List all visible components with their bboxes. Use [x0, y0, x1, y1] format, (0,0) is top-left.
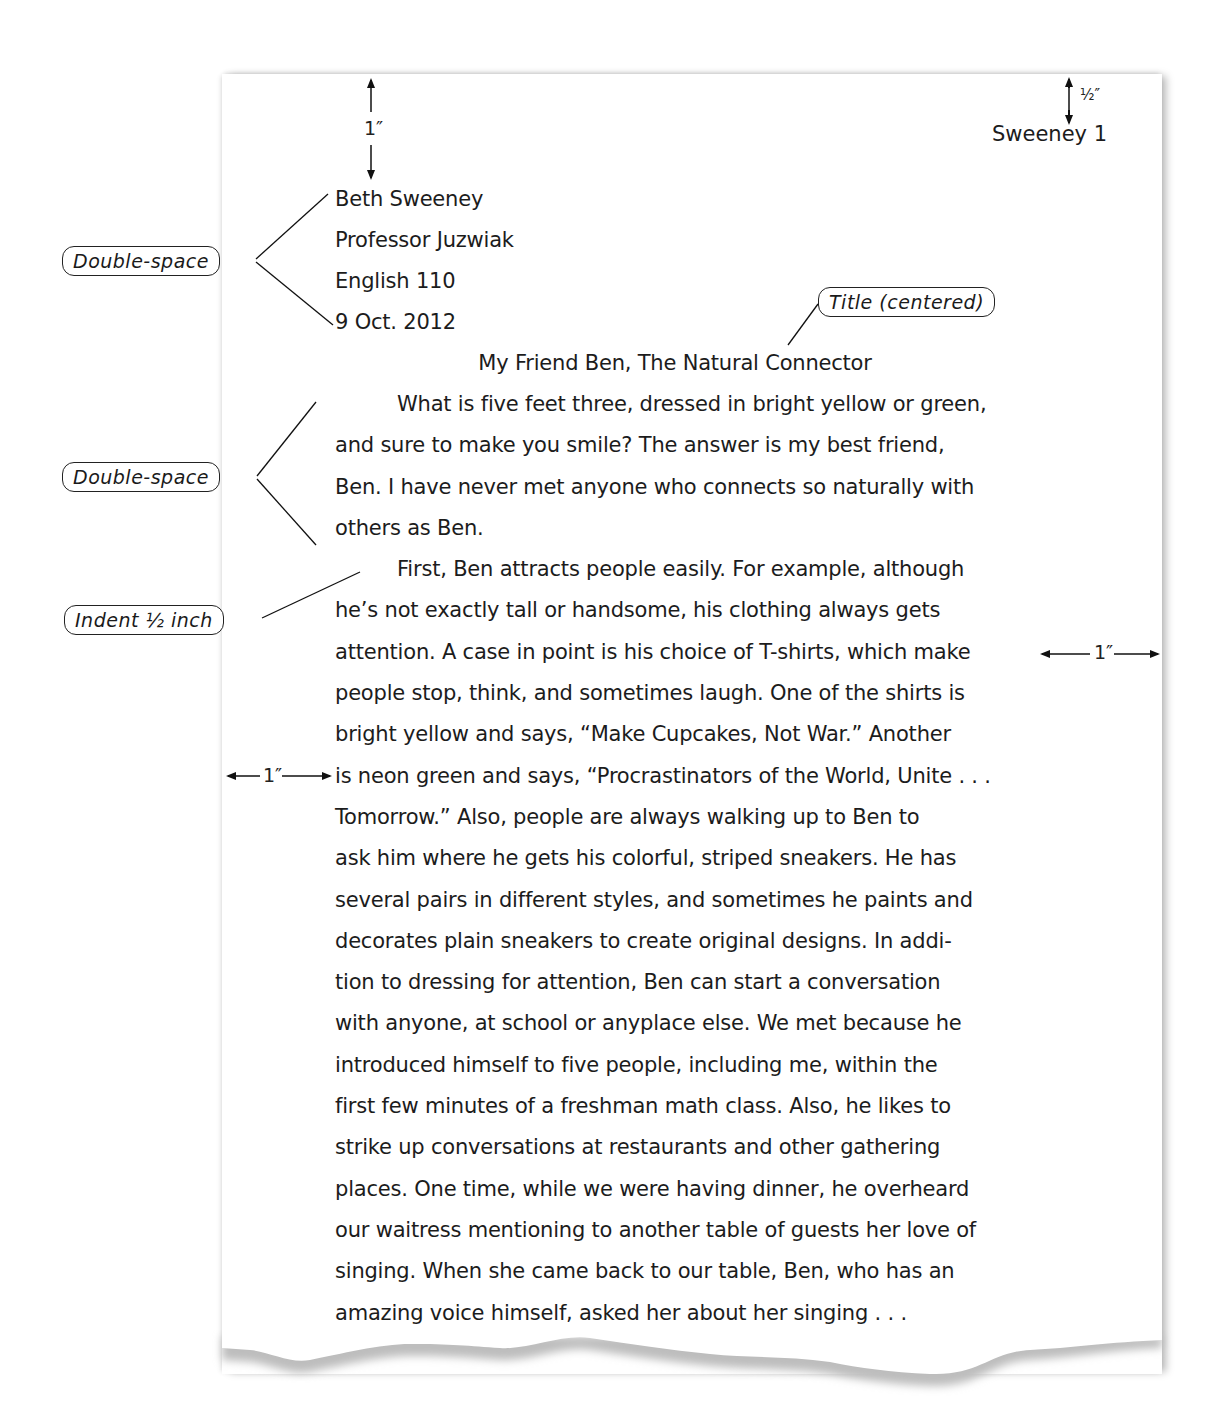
body-line: amazing voice himself, asked her about h… — [335, 1293, 991, 1334]
body-line: attention. A case in point is his choice… — [335, 632, 991, 673]
essay-body: What is five feet three, dressed in brig… — [335, 384, 991, 1334]
body-line: strike up conversations at restaurants a… — [335, 1127, 991, 1168]
student-name: Beth Sweeney — [335, 179, 514, 220]
running-head: Sweeney 1 — [992, 122, 1107, 146]
body-line: with anyone, at school or anyplace else.… — [335, 1003, 991, 1044]
essay-title: My Friend Ben, The Natural Connector — [335, 343, 1015, 384]
body-line: others as Ben. — [335, 508, 991, 549]
body-line: First, Ben attracts people easily. For e… — [335, 549, 991, 590]
body-line: Ben. I have never met anyone who connect… — [335, 467, 991, 508]
body-line: several pairs in different styles, and s… — [335, 880, 991, 921]
body-line: Tomorrow.” Also, people are always walki… — [335, 797, 991, 838]
body-line: singing. When she came back to our table… — [335, 1251, 991, 1292]
body-line: our waitress mentioning to another table… — [335, 1210, 991, 1251]
body-line: ask him where he gets his colorful, stri… — [335, 838, 991, 879]
right-margin-label: 1″ — [1094, 641, 1113, 663]
body-line: people stop, think, and sometimes laugh.… — [335, 673, 991, 714]
body-line: decorates plain sneakers to create origi… — [335, 921, 991, 962]
course-name: English 110 — [335, 261, 514, 302]
callout-title-centered: Title (centered) — [818, 287, 995, 317]
body-line: What is five feet three, dressed in brig… — [335, 384, 991, 425]
body-line: introduced himself to five people, inclu… — [335, 1045, 991, 1086]
top-margin-label: 1″ — [364, 117, 383, 139]
callout-indent: Indent ½ inch — [64, 605, 224, 635]
body-line: is neon green and says, “Procrastinators… — [335, 756, 991, 797]
date: 9 Oct. 2012 — [335, 302, 514, 343]
left-margin-label: 1″ — [263, 764, 282, 786]
body-line: places. One time, while we were having d… — [335, 1169, 991, 1210]
heading-block: Beth Sweeney Professor Juzwiak English 1… — [335, 179, 514, 343]
body-line: first few minutes of a freshman math cla… — [335, 1086, 991, 1127]
callout-double-space-body: Double-space — [62, 462, 220, 492]
body-line: and sure to make you smile? The answer i… — [335, 425, 991, 466]
torn-page-edge — [210, 1330, 1180, 1400]
header-margin-label: ½″ — [1080, 86, 1100, 104]
body-line: tion to dressing for attention, Ben can … — [335, 962, 991, 1003]
body-line: bright yellow and says, “Make Cupcakes, … — [335, 714, 991, 755]
callout-double-space-heading: Double-space — [62, 246, 220, 276]
body-line: he’s not exactly tall or handsome, his c… — [335, 590, 991, 631]
instructor-name: Professor Juzwiak — [335, 220, 514, 261]
